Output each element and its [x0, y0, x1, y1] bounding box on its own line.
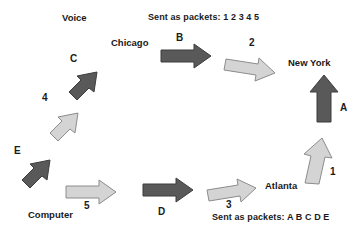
- arrow-e-shape: [22, 160, 50, 188]
- node-label-new-york: New York: [288, 58, 330, 68]
- arrow-label-1: 1: [330, 167, 336, 177]
- arrow-label-a: A: [340, 103, 347, 113]
- node-label-atlanta: Atlanta: [265, 181, 297, 191]
- arrow-label-5: 5: [84, 201, 90, 211]
- arrow-label-3: 3: [226, 200, 232, 210]
- arrow-label-2: 2: [249, 38, 255, 48]
- arrow-1-shape: [304, 138, 332, 184]
- node-label-voice: Voice: [62, 13, 87, 23]
- arrow-label-c: C: [70, 54, 77, 64]
- top-caption: Sent as packets: 1 2 3 4 5: [148, 13, 259, 22]
- arrow-label-d: D: [158, 207, 165, 217]
- arrow-label-4: 4: [42, 93, 48, 103]
- arrow-5-shape: [66, 180, 116, 204]
- arrow-label-b: B: [176, 33, 183, 43]
- bottom-caption: Sent as packets: A B C D E: [212, 213, 329, 222]
- node-label-computer: Computer: [28, 210, 73, 220]
- arrow-2-shape: [224, 58, 275, 81]
- arrow-4-shape: [50, 113, 78, 141]
- arrow-d-shape: [143, 178, 193, 202]
- arrow-label-e: E: [14, 146, 21, 156]
- node-label-chicago: Chicago: [111, 38, 148, 48]
- arrow-c-shape: [69, 72, 97, 100]
- arrow-b-shape: [161, 44, 211, 68]
- diagram-canvas: Sent as packets: 1 2 3 4 5 Sent as packe…: [0, 0, 360, 242]
- arrow-a-shape: [310, 75, 338, 122]
